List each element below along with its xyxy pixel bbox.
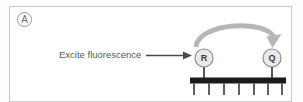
reporter-node: R [195,49,213,67]
energy-transfer-arc [196,26,274,47]
reporter-label: R [201,53,208,63]
figure-panel-a: A Excite fluorescence [0,0,303,102]
probe-base-ticks [194,84,282,96]
quencher-label: Q [268,53,275,63]
energy-transfer-arrow-head [267,34,282,48]
diagram-graphics: R Q [0,0,303,102]
energy-transfer-arrow [196,26,282,48]
quencher-node: Q [263,49,281,67]
probe-backbone [190,78,286,84]
excitation-arrow-head [183,52,192,60]
excitation-arrow [146,52,192,60]
